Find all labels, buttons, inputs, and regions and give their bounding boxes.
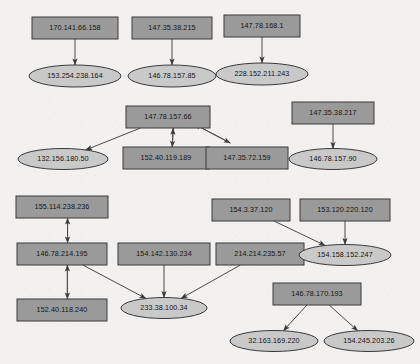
node-label: 152.40.119.189 bbox=[141, 153, 192, 162]
graph-node[interactable]: 147.35.38.215 bbox=[132, 17, 212, 39]
graph-node[interactable]: 146.78.157.90 bbox=[289, 149, 377, 170]
node-label: 154.245.203.26 bbox=[343, 336, 394, 345]
graph-node[interactable]: 146.78.214.195 bbox=[17, 243, 107, 265]
node-label: 152.40.118.240 bbox=[37, 305, 88, 314]
node-label: 146.78.157.85 bbox=[148, 71, 195, 80]
graph-node[interactable]: 228.152.211.243 bbox=[216, 63, 308, 85]
node-label: 170.141.66.158 bbox=[49, 23, 100, 32]
graph-node[interactable]: 155.114.238.236 bbox=[16, 196, 108, 218]
node-label: 147.35.38.217 bbox=[309, 108, 356, 117]
node-label: 233.38.100.34 bbox=[140, 303, 187, 312]
node-label: 154.142.130.234 bbox=[136, 249, 191, 258]
graph-edge bbox=[83, 265, 146, 298]
node-label: 153.120.220.120 bbox=[317, 205, 372, 214]
graph-node[interactable]: 214.214.235.57 bbox=[216, 243, 304, 265]
node-label: 32.163.169.220 bbox=[248, 336, 299, 345]
graph-edge bbox=[181, 265, 240, 298]
graph-node[interactable]: 146.78.157.85 bbox=[128, 65, 216, 87]
network-diagram-canvas: 170.141.66.158147.35.38.215147.78.168.11… bbox=[0, 0, 420, 364]
graph-node[interactable]: 147.78.168.1 bbox=[224, 15, 300, 37]
graph-node[interactable]: 170.141.66.158 bbox=[32, 17, 118, 39]
graph-node[interactable]: 147.35.72.159 bbox=[206, 147, 288, 169]
node-label: 147.78.157.66 bbox=[144, 112, 191, 121]
graph-node[interactable]: 154.245.203.26 bbox=[324, 331, 414, 352]
graph-node[interactable]: 154.158.152.247 bbox=[299, 245, 391, 266]
node-layer: 170.141.66.158147.35.38.215147.78.168.11… bbox=[16, 15, 414, 352]
graph-node[interactable]: 152.40.119.189 bbox=[123, 147, 209, 169]
node-label: 147.35.72.159 bbox=[223, 153, 270, 162]
node-label: 146.78.214.195 bbox=[36, 249, 87, 258]
node-label: 228.152.211.243 bbox=[235, 69, 290, 78]
node-label: 155.114.238.236 bbox=[35, 202, 90, 211]
node-label: 146.78.170.193 bbox=[291, 289, 342, 298]
graph-node[interactable]: 152.40.118.240 bbox=[17, 299, 107, 321]
graph-edge bbox=[172, 128, 173, 147]
graph-edge bbox=[329, 305, 358, 331]
graph-node[interactable]: 146.78.170.193 bbox=[273, 283, 361, 305]
node-label: 146.78.157.90 bbox=[309, 154, 356, 163]
graph-node[interactable]: 32.163.169.220 bbox=[230, 331, 318, 352]
graph-edge bbox=[283, 305, 307, 331]
graph-node[interactable]: 132.156.180.50 bbox=[18, 149, 108, 170]
graph-node[interactable]: 153.120.220.120 bbox=[300, 199, 390, 221]
graph-node[interactable]: 154.142.130.234 bbox=[118, 243, 210, 265]
node-label: 214.214.235.57 bbox=[234, 249, 285, 258]
node-label: 153.254.238.164 bbox=[47, 71, 102, 80]
graph-node[interactable]: 233.38.100.34 bbox=[121, 298, 207, 319]
graph-node[interactable]: 154.3.37.120 bbox=[212, 199, 290, 221]
node-label: 132.156.180.50 bbox=[37, 154, 88, 163]
graph-node[interactable]: 147.35.38.217 bbox=[292, 102, 374, 124]
node-label: 154.3.37.120 bbox=[229, 205, 272, 214]
graph-node[interactable]: 153.254.238.164 bbox=[29, 65, 121, 87]
network-graph: 170.141.66.158147.35.38.215147.78.168.11… bbox=[0, 0, 420, 364]
graph-node[interactable]: 147.78.157.66 bbox=[126, 106, 210, 128]
node-label: 154.158.152.247 bbox=[317, 250, 372, 259]
graph-edge bbox=[274, 221, 325, 246]
node-label: 147.78.168.1 bbox=[240, 21, 283, 30]
node-label: 147.35.38.215 bbox=[148, 23, 195, 32]
